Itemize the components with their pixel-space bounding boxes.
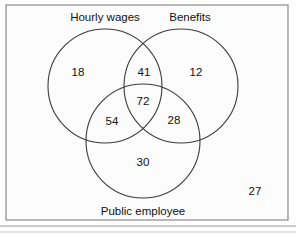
region-count-all-three: 72 <box>137 95 150 107</box>
region-count-benefits-public: 28 <box>168 114 181 126</box>
region-count-public-only: 30 <box>137 156 150 168</box>
region-count-outside-all: 27 <box>249 185 262 197</box>
set-label-hourly-wages: Hourly wages <box>70 11 140 23</box>
region-count-hourly-public: 54 <box>106 115 119 127</box>
set-label-benefits: Benefits <box>169 11 211 23</box>
venn-diagram-canvas: Hourly wages Benefits Public employee 18… <box>0 0 296 234</box>
diagram-frame <box>6 5 288 220</box>
set-label-public-employee: Public employee <box>101 205 185 217</box>
region-count-hourly-benefits: 41 <box>138 66 151 78</box>
region-count-hourly-only: 18 <box>72 66 85 78</box>
region-count-benefits-only: 12 <box>190 66 203 78</box>
venn-diagram-figure: Hourly wages Benefits Public employee 18… <box>0 0 296 234</box>
